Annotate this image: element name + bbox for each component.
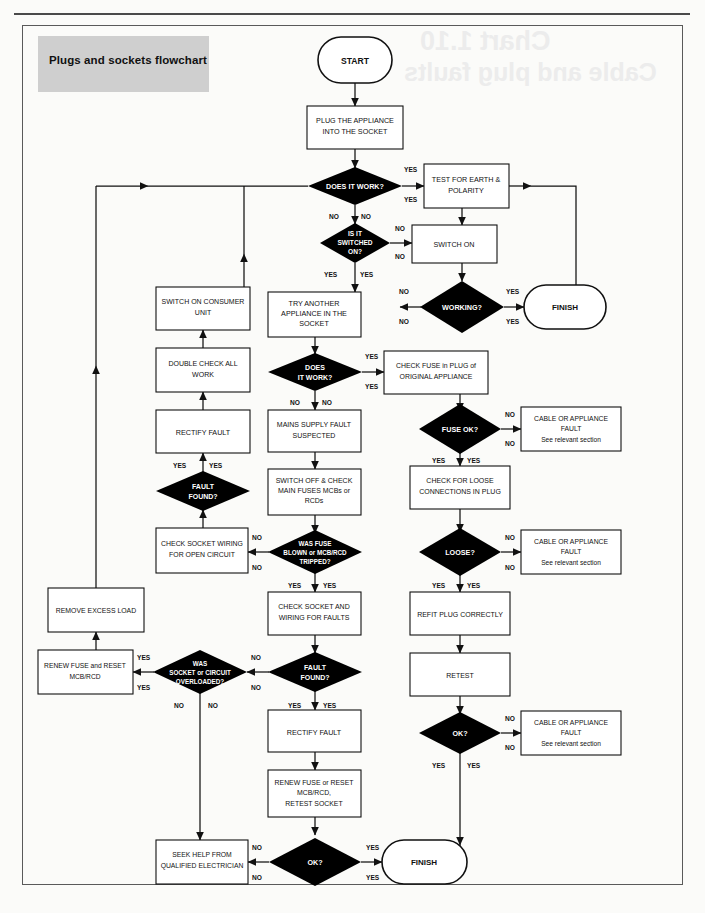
node-check-fuse-in-plug: CHECK FUSE in PLUG of ORIGINAL APPLIANCE — [384, 351, 488, 394]
edge-label-yes: YES — [432, 762, 446, 769]
node-was-fuse-blown: WAS FUSE BLOWN or MCB/RCD TRIPPED? — [268, 530, 362, 574]
node-finish2-label: FINISH — [411, 858, 437, 867]
edge-label-no: NO — [252, 874, 262, 881]
node-checksocketf-line1: CHECK SOCKET AND — [278, 603, 349, 610]
node-cable-appliance-fault-2: CABLE OR APPLIANCE FAULT See relevant se… — [521, 530, 621, 574]
node-retest-label: RETEST — [446, 672, 474, 679]
edge-label-yes: YES — [506, 318, 520, 325]
node-loose: LOOSE? — [419, 528, 501, 576]
node-cable-appliance-fault-3: CABLE OR APPLIANCE FAULT See relevant se… — [521, 711, 621, 755]
node-finish-2: FINISH — [382, 840, 467, 884]
edge-label-no: NO — [505, 564, 515, 571]
node-was-socket-overloaded: WAS SOCKET or CIRCUIT OVERLOADED? — [153, 650, 247, 694]
node-switched-line3: ON? — [348, 248, 362, 255]
node-switch-on: SWITCH ON — [412, 225, 497, 263]
edge-label-no: NO — [505, 411, 515, 418]
node-test-earth-polarity: TEST FOR EARTH & POLARITY — [424, 164, 509, 208]
node-renewreset-line1: RENEW FUSE and RESET — [44, 662, 126, 669]
node-double-check-all-work: DOUBLE CHECK ALL WORK — [156, 348, 250, 392]
edge-label-no: NO — [252, 534, 262, 541]
node-plug-line2: INTO THE SOCKET — [323, 127, 388, 136]
node-cable3-line2: FAULT — [561, 729, 582, 736]
node-does-it-work-1: DOES IT WORK? — [308, 167, 402, 205]
node-fuseok-label: FUSE OK? — [442, 425, 478, 434]
edge-label-no: NO — [395, 225, 405, 232]
node-wasfuse-line3: TRIPPED? — [299, 558, 330, 565]
node-check-loose-connections: CHECK FOR LOOSE CONNECTIONS IN PLUG — [410, 466, 510, 509]
node-work2-line2: IT WORK? — [298, 374, 333, 381]
edge-label-no: NO — [252, 844, 262, 851]
edge-label-yes: YES — [467, 457, 481, 464]
node-rectify-fault-2: RECTIFY FAULT — [268, 710, 361, 752]
node-work1-label: DOES IT WORK? — [326, 182, 384, 191]
node-faultfound2-line1: FAULT — [304, 664, 327, 671]
node-overloaded-line1: WAS — [193, 660, 207, 667]
node-tryanother-line2: APPLIANCE IN THE — [281, 309, 347, 318]
node-overloaded-line2: SOCKET or CIRCUIT — [169, 669, 231, 676]
edge-label-yes: YES — [323, 582, 337, 589]
edge-label-no: NO — [329, 213, 339, 220]
edge-label-no: NO — [505, 744, 515, 751]
node-checkfuse-line2: ORIGINAL APPLIANCE — [400, 373, 473, 380]
node-doublecheck-line2: WORK — [192, 371, 214, 378]
node-remove-excess-load: REMOVE EXCESS LOAD — [48, 588, 144, 632]
node-rectify-fault-1: RECTIFY FAULT — [156, 410, 250, 453]
edge-label-no: NO — [251, 654, 261, 661]
edge-label-no: NO — [361, 213, 371, 220]
edge-label-no: NO — [399, 318, 409, 325]
flowchart-svg: START PLUG THE APPLIANCE INTO THE SOCKET… — [0, 0, 705, 913]
node-seekhelp-line1: SEEK HELP FROM — [172, 851, 232, 858]
node-is-it-switched-on: IS IT SWITCHED ON? — [320, 223, 390, 263]
node-doublecheck-line1: DOUBLE CHECK ALL — [168, 360, 237, 367]
node-checkloose-line2: CONNECTIONS IN PLUG — [419, 488, 501, 495]
node-fault-found-2: FAULT FOUND? — [268, 652, 362, 692]
node-cable2-line2: FAULT — [561, 548, 582, 555]
node-does-it-work-2: DOES IT WORK? — [268, 353, 362, 391]
node-ok2-label: OK? — [307, 858, 322, 867]
node-plug-appliance: PLUG THE APPLIANCE INTO THE SOCKET — [307, 106, 403, 149]
node-rectify2-label: RECTIFY FAULT — [287, 728, 342, 737]
node-renewfuse2-line3: RETEST SOCKET — [285, 800, 343, 807]
edge-label-no: NO — [505, 534, 515, 541]
edge-label-no: NO — [252, 564, 262, 571]
node-cable1-line3: See relevant section — [541, 436, 601, 443]
node-renew-fuse-reset: RENEW FUSE and RESET MCB/RCD — [38, 650, 133, 694]
edge-label-yes: YES — [506, 288, 520, 295]
node-working: WORKING? — [420, 281, 504, 333]
edge-label-no: NO — [290, 399, 300, 406]
node-ok-1: OK? — [419, 712, 501, 754]
edge-label-yes: YES — [366, 844, 380, 851]
edge-label-yes: YES — [323, 702, 337, 709]
node-wasfuse-line2: BLOWN or MCB/RCD — [283, 549, 347, 556]
node-mains-supply-fault: MAINS SUPPLY FAULT SUSPECTED — [268, 410, 361, 452]
edge-label-no: NO — [505, 440, 515, 447]
node-refit-plug-correctly: REFIT PLUG CORRECTLY — [410, 592, 510, 635]
node-switch-off-check-fuses: SWITCH OFF & CHECK MAIN FUSES MCBs or RC… — [268, 469, 361, 515]
edge-label-no: NO — [208, 702, 218, 709]
node-renewfuse2-line2: MCB/RCD, — [297, 789, 331, 796]
node-tryanother-line1: TRY ANOTHER — [289, 299, 340, 308]
node-faultfound2-line2: FOUND? — [300, 674, 329, 681]
edge-label-yes: YES — [365, 353, 379, 360]
node-check-socket-wiring-open: CHECK SOCKET WIRING FOR OPEN CIRCUIT — [156, 528, 248, 573]
edge-label-yes: YES — [432, 457, 446, 464]
node-seekhelp-line2: QUALIFIED ELECTRICIAN — [161, 862, 244, 870]
node-cable3-line1: CABLE OR APPLIANCE — [534, 719, 609, 726]
node-fuse-ok: FUSE OK? — [419, 404, 501, 454]
node-cable-appliance-fault-1: CABLE OR APPLIANCE FAULT See relevant se… — [521, 407, 621, 451]
edge-label-yes: YES — [432, 582, 446, 589]
node-mains-line2: SUSPECTED — [293, 432, 336, 439]
node-cable2-line1: CABLE OR APPLIANCE — [534, 538, 609, 545]
edge-label-no: NO — [395, 253, 405, 260]
edge-label-no: NO — [322, 399, 332, 406]
node-switchoff-line3: RCDs — [305, 497, 324, 504]
node-tryanother-line3: SOCKET — [299, 319, 329, 328]
edge-label-no: NO — [399, 288, 409, 295]
node-switched-line2: SWITCHED — [337, 239, 372, 246]
node-ok1-label: OK? — [452, 729, 467, 738]
edge-label-yes: YES — [360, 271, 374, 278]
node-cable1-line2: FAULT — [561, 425, 582, 432]
node-ok-2: OK? — [269, 838, 361, 886]
edge-label-yes: YES — [324, 271, 338, 278]
node-switchoff-line2: MAIN FUSES MCBs or — [278, 487, 351, 494]
